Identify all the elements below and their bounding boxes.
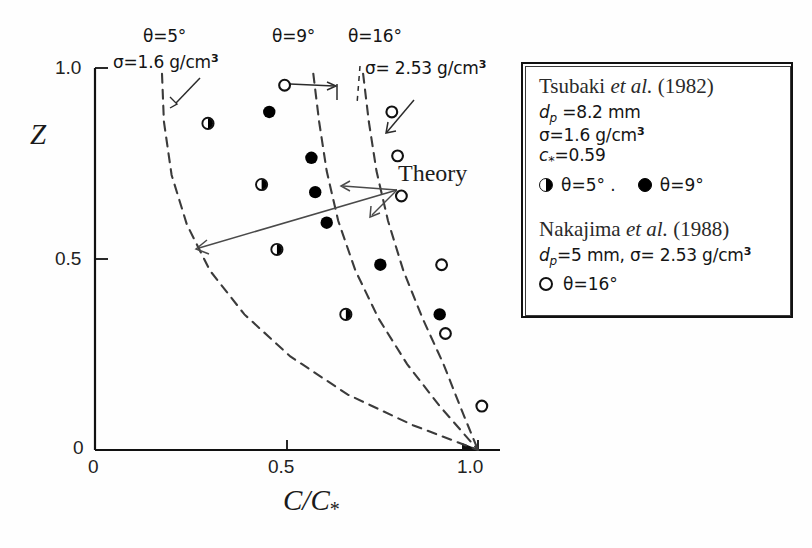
sigma-1.6-exponent: 3 (211, 52, 218, 65)
data-point-open-circle (440, 328, 451, 339)
theta16-tick-mark (357, 66, 360, 104)
theory-curves (162, 74, 478, 450)
legend-box: Tsubaki et al. (1982) dp =8.2 mm σ=1.6 g… (521, 62, 793, 318)
data-point-half-filled-circle (202, 118, 213, 129)
figure-root: 1.0 0.5 0 0 0.5 1.0 Z C/C* θ=5° σ=1.6 g/… (0, 0, 812, 548)
data-point-open-circle (386, 107, 397, 118)
theta16-label: θ=16° (348, 26, 402, 46)
x-axis-title: C/C* (283, 484, 339, 521)
theta5-leader (176, 78, 200, 103)
theory-label: Theory (398, 160, 467, 187)
data-point-filled-circle (309, 186, 321, 198)
data-point-half-filled-circle (271, 244, 282, 255)
legend-entry1-author: Tsubaki (539, 74, 610, 98)
theta9-label: θ=9° (272, 26, 315, 46)
theta5-label: θ=5° (143, 26, 186, 46)
data-point-filled-circle (305, 152, 317, 164)
x-tick-1.0: 1.0 (457, 456, 483, 478)
data-point-open-circle (476, 401, 487, 412)
data-point-half-filled-circle (340, 309, 351, 320)
legend-entry2-etal: et al. (626, 217, 668, 241)
data-point-filled-circle (321, 217, 333, 229)
y-axis-title: Z (30, 118, 46, 151)
legend-entry2-dp-symbol: d (539, 245, 550, 265)
legend-divider-space (539, 195, 791, 217)
data-point-filled-circle (434, 308, 446, 320)
x-axis-title-main: C/C (283, 484, 330, 516)
y-tick-0: 0 (73, 437, 84, 459)
data-point-open-circle (396, 191, 407, 202)
legend-entry2-dp-sigma: dp=5 mm, σ= 2.53 g/cm3 (539, 245, 791, 268)
theta5-arrowhead (170, 97, 177, 108)
legend-entry2-sigma-text: σ= 2.53 g/cm (630, 245, 744, 265)
legend-entry2-author: Nakajima (539, 217, 626, 241)
x-axis-title-sub: * (330, 498, 340, 520)
sigma-1.6-label: σ=1.6 g/cm3 (113, 52, 218, 72)
legend-entry1-etal: et al. (610, 74, 652, 98)
data-point-filled-circle (263, 106, 275, 118)
legend-entry1-cstar-value: =0.59 (554, 145, 605, 165)
legend-entry1-cstar: c*=0.59 (539, 145, 791, 169)
sigma-2.53-text: σ= 2.53 g/cm (365, 58, 479, 78)
half-filled-circle-icon (539, 178, 553, 192)
legend-symbol-theta16-label: θ=16° (563, 274, 618, 294)
legend-entry1-year: (1982) (652, 74, 713, 98)
legend-entry1-sigma: σ=1.6 g/cm3 (539, 125, 791, 145)
data-point-half-filled-circle (256, 179, 267, 190)
data-markers (202, 80, 487, 412)
data-point-open-circle (279, 80, 290, 91)
theory-curve (313, 74, 478, 450)
sigma-1.6-text: σ=1.6 g/cm (113, 52, 211, 72)
legend-entry1-dp-symbol: d (539, 102, 550, 122)
axis-ticks (95, 68, 478, 450)
legend-entry1-dp-subscript: p (550, 111, 557, 125)
x-tick-0.5: 0.5 (268, 456, 294, 478)
legend-symbol-theta5-label: θ=5° . (561, 175, 616, 195)
theory-arrow-left (199, 190, 397, 248)
theory-arrows (196, 181, 397, 254)
legend-entry2-year: (1988) (668, 217, 729, 241)
legend-entry2-symbols: θ=16° (539, 274, 791, 294)
open-circle-icon (539, 277, 553, 291)
legend-entry1-sigma-text: σ=1.6 g/cm (539, 125, 637, 145)
data-point-filled-circle (374, 259, 386, 271)
legend-entry1-sigma-exponent: 3 (637, 125, 644, 138)
x-tick-0: 0 (88, 456, 99, 478)
legend-entry1-title: Tsubaki et al. (1982) (539, 74, 791, 99)
sigma-2.53-exponent: 3 (479, 58, 486, 71)
legend-entry2-dp-subscript: p (550, 254, 557, 268)
y-tick-1.0: 1.0 (55, 57, 81, 79)
y-tick-0.5: 0.5 (55, 248, 81, 270)
filled-circle-icon (638, 178, 652, 192)
legend-entry1-cstar-symbol: c (539, 145, 548, 165)
sigma-2.53-label: σ= 2.53 g/cm3 (365, 58, 486, 78)
theory-arrow-upper (343, 186, 397, 190)
legend-entry2-dp-value: =5 mm, (557, 245, 630, 265)
legend-entry1-dp-value: =8.2 mm (557, 102, 641, 122)
legend-entry2-title: Nakajima et al. (1988) (539, 217, 791, 242)
legend-entry1-dp: dp =8.2 mm (539, 102, 791, 125)
legend-entry1-symbols: θ=5° . θ=9° (539, 175, 791, 195)
legend-symbol-theta9-label: θ=9° (660, 175, 704, 195)
data-point-open-circle (436, 259, 447, 270)
theta9-leader (290, 84, 334, 86)
legend-entry2-sigma-exponent: 3 (744, 245, 751, 258)
